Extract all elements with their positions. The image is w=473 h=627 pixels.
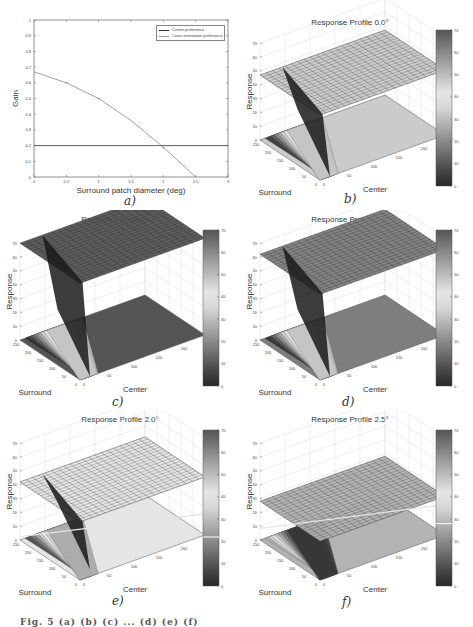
svg-text:10: 10	[253, 324, 258, 329]
panel-b: Response Profile 0.0° 010203040506070Res…	[240, 0, 473, 215]
svg-text:50: 50	[253, 268, 258, 273]
svg-text:1: 1	[29, 18, 32, 23]
svg-text:150: 150	[37, 558, 44, 563]
svg-text:100: 100	[289, 166, 296, 171]
svg-text:30: 30	[221, 517, 226, 522]
svg-text:0.5: 0.5	[25, 96, 31, 101]
svg-text:100: 100	[49, 366, 56, 371]
panel-e: Response Profile 2.0° 010203040506070Res…	[0, 410, 240, 610]
svg-text:200: 200	[265, 150, 272, 155]
svg-text:100: 100	[131, 564, 138, 569]
svg-text:30: 30	[454, 117, 459, 122]
svg-text:50: 50	[302, 374, 307, 379]
caption-f: f)	[342, 595, 351, 609]
svg-text:Center: Center	[123, 385, 147, 394]
svg-text:Center: Center	[363, 385, 387, 394]
surface-plot: 010203040506070Response00505010010015015…	[0, 410, 240, 610]
svg-text:20: 20	[454, 339, 459, 344]
svg-text:10: 10	[221, 361, 226, 366]
svg-text:Surround: Surround	[19, 388, 52, 397]
svg-text:0: 0	[221, 384, 224, 389]
svg-text:60: 60	[454, 50, 459, 55]
svg-text:50: 50	[253, 468, 258, 473]
svg-text:0: 0	[83, 582, 86, 587]
svg-text:0.6: 0.6	[25, 80, 31, 85]
svg-text:50: 50	[347, 373, 352, 378]
svg-text:200: 200	[181, 546, 188, 551]
svg-text:70: 70	[253, 41, 258, 46]
svg-text:10: 10	[13, 324, 18, 329]
svg-text:250: 250	[253, 142, 260, 147]
svg-text:1.5: 1.5	[128, 179, 134, 184]
svg-text:150: 150	[396, 355, 403, 360]
svg-text:200: 200	[421, 146, 428, 151]
svg-text:50: 50	[62, 374, 67, 379]
svg-text:50: 50	[13, 468, 18, 473]
svg-text:40: 40	[221, 294, 226, 299]
svg-text:100: 100	[289, 566, 296, 571]
svg-text:250: 250	[253, 542, 260, 547]
svg-text:0: 0	[454, 184, 457, 189]
svg-text:150: 150	[277, 358, 284, 363]
svg-text:10: 10	[454, 161, 459, 166]
svg-text:70: 70	[454, 28, 459, 33]
svg-text:10: 10	[454, 561, 459, 566]
svg-text:60: 60	[221, 250, 226, 255]
svg-text:200: 200	[181, 346, 188, 351]
svg-text:50: 50	[221, 472, 226, 477]
svg-text:0: 0	[33, 179, 36, 184]
figure-caption: Fig. 5 (a) (b) (c) ... (d) (e) (f)	[20, 617, 199, 627]
legend: Center preference Cross orientation pref…	[156, 25, 225, 41]
panel-a: 00.511.522.5300.10.20.30.40.50.60.70.80.…	[0, 0, 240, 210]
svg-text:50: 50	[253, 68, 258, 73]
svg-text:20: 20	[454, 139, 459, 144]
svg-text:200: 200	[25, 550, 32, 555]
svg-text:250: 250	[253, 342, 260, 347]
svg-text:40: 40	[454, 94, 459, 99]
svg-text:0: 0	[315, 182, 318, 187]
svg-text:60: 60	[253, 455, 258, 460]
svg-text:150: 150	[396, 555, 403, 560]
svg-text:0: 0	[221, 584, 224, 589]
svg-text:70: 70	[454, 228, 459, 233]
svg-text:30: 30	[454, 317, 459, 322]
svg-text:100: 100	[131, 364, 138, 369]
svg-text:60: 60	[253, 55, 258, 60]
svg-text:10: 10	[253, 524, 258, 529]
svg-text:Response: Response	[5, 273, 14, 310]
caption-a: a)	[124, 194, 136, 208]
svg-text:200: 200	[25, 350, 32, 355]
svg-text:0: 0	[75, 382, 78, 387]
svg-text:0.2: 0.2	[25, 143, 31, 148]
svg-text:Response: Response	[245, 273, 254, 310]
svg-text:70: 70	[253, 441, 258, 446]
svg-text:40: 40	[454, 494, 459, 499]
svg-text:Surround: Surround	[259, 588, 292, 597]
svg-text:20: 20	[221, 339, 226, 344]
svg-text:150: 150	[37, 358, 44, 363]
svg-text:0.4: 0.4	[25, 112, 31, 117]
svg-text:50: 50	[347, 573, 352, 578]
svg-text:250: 250	[13, 542, 20, 547]
caption-b: b)	[344, 192, 356, 206]
svg-text:50: 50	[454, 272, 459, 277]
svg-text:70: 70	[221, 228, 226, 233]
svg-text:0.1: 0.1	[25, 159, 31, 164]
svg-text:Center: Center	[123, 585, 147, 594]
svg-text:0: 0	[315, 582, 318, 587]
svg-text:Surround: Surround	[19, 588, 52, 597]
svg-text:100: 100	[49, 566, 56, 571]
svg-text:60: 60	[253, 255, 258, 260]
svg-text:30: 30	[454, 517, 459, 522]
svg-text:Response: Response	[245, 73, 254, 110]
svg-text:60: 60	[221, 450, 226, 455]
surface-plot: 010203040506070Response00505010010015015…	[240, 410, 473, 610]
panel-d: Response Profile 1.0° 010203040506070Res…	[240, 210, 473, 420]
svg-text:50: 50	[62, 574, 67, 579]
svg-text:Surround: Surround	[259, 388, 292, 397]
svg-text:0: 0	[323, 582, 326, 587]
svg-text:150: 150	[156, 555, 163, 560]
svg-text:Response: Response	[5, 473, 14, 510]
svg-text:0: 0	[75, 582, 78, 587]
svg-text:150: 150	[277, 558, 284, 563]
